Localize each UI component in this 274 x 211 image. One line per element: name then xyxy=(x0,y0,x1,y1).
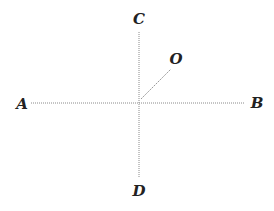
label-a: A xyxy=(16,97,28,112)
label-d: D xyxy=(132,184,145,199)
diagram-lines xyxy=(0,0,274,211)
diagram-canvas: A B C D O xyxy=(0,0,274,211)
ray-to-o xyxy=(141,69,171,99)
label-b: B xyxy=(251,96,264,111)
label-o: O xyxy=(169,52,182,67)
label-c: C xyxy=(133,12,145,27)
